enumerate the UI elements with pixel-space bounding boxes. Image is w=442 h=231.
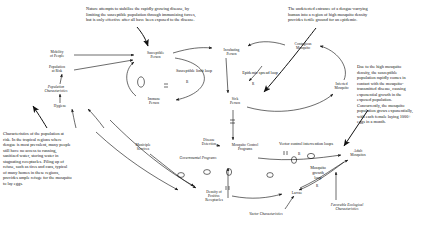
note-nature: Nature attempts to stabilize the rapidly… [86,6,266,23]
variable-favorable-ecological-characteristics: Favorable Ecological Characteristics [317,203,377,211]
variable-disease-detection: Disease Detection [195,138,223,146]
variable-incubating-person: Incubating Person [216,48,247,56]
note-density: Due to the high mosquito density, the su… [357,64,441,125]
variable-adult-mosquitos: Adult Mosquitos [343,149,373,157]
variable-susceptible-person: Susceptible Person [139,51,172,59]
diagram-canvas: Nature attempts to stabilize the rapidly… [0,0,442,231]
variable-population-characteristics: Population Characteristics [38,85,74,93]
variable-larvae: Larvae [285,191,309,195]
loop-polarity-epidemic-spread-loop: R [252,82,254,86]
loop-label-mosquito-growth-loop: Mosquito growth loop [306,166,330,181]
variable-vector-characteristics: Vector Characteristics [235,212,297,216]
variable-immune-person: Immune Person [140,97,168,105]
variable-governmental-programs: Governmental Programs [165,156,231,160]
note-characteristics: Characteristics of the population at ris… [3,131,121,186]
loop-polarity-mosquito-growth-loop: R [316,184,318,188]
loop-label-susceptible-limit-loop: Susceptible limit loop [163,69,225,74]
variable-density-of-positive-receptacles: Density of Positive Receptacles [197,190,231,203]
loop-polarity-susceptible-limit-loop: B [186,80,188,84]
variable-sick-person: Sick Person [223,97,247,105]
variable-hygiene: Hygiene [47,104,73,108]
loop-label-epidemic-spread-loop: Epidemic spread loop [230,71,290,76]
loop-label-vector-control-intervention-loops: Vector control intervention loops [258,142,354,147]
variable-contagious-mosquito: Contagious Mosquito [287,42,319,50]
variable-population-at-risk: Population at Risk [42,65,72,73]
variable-mobility-of-people: Mobility of People [43,50,71,58]
variable-infected-mosquito: Infected Mosquito [327,82,356,90]
variable-municiple-services: Municiple Services [128,143,158,151]
note-undetected: The undetected entrance of a dengue-carr… [288,6,438,23]
loop-polarity-vector-control-intervention-loops: B [298,152,300,156]
